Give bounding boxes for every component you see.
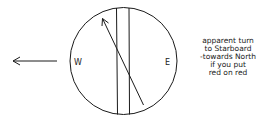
west-label: W [74,58,82,67]
left-arrow-icon [13,57,57,65]
lubber-line-left [117,8,118,115]
east-label: E [165,58,170,67]
caption-line: red on red [196,69,260,77]
compass-circle [70,8,177,115]
caption: apparent turn to Starboard -towards Nort… [196,37,260,77]
lubber-line-right [129,8,130,115]
needle-arrow-icon [102,19,144,106]
